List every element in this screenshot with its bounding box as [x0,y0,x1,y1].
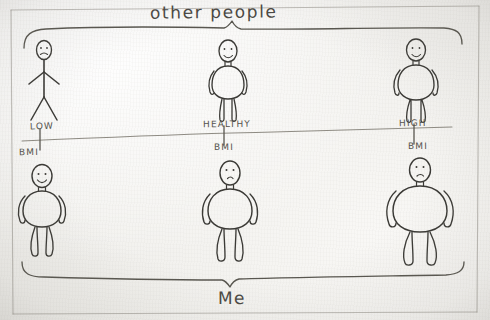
handdrawn-diagram-page: other people LOW BMI HEALTHY BMI HIGH BM… [0,0,490,320]
axis-label-healthy-unit: BMI [214,142,234,152]
axis-label-low-level: LOW [30,121,54,132]
figure-other-healthy-bmi [209,40,247,121]
axis-label-low-unit: BMI [19,147,39,157]
axis-label-high-unit: BMI [408,141,428,151]
bottom-brace [22,262,464,287]
bottom-brace-label: Me [218,288,246,308]
ink-drawing-layer [0,0,490,320]
figure-other-high-bmi [394,39,438,122]
page-frame [11,6,479,314]
figure-me-low-bmi [18,165,65,257]
figure-other-low-bmi [29,41,59,121]
figure-me-high-bmi [387,158,453,265]
axis-label-healthy-level: HEALTHY [203,119,251,129]
axis-label-high-level: HIGH [399,118,427,128]
top-brace [24,21,462,48]
top-brace-label: other people [150,1,278,22]
figure-me-healthy-bmi [202,161,257,261]
